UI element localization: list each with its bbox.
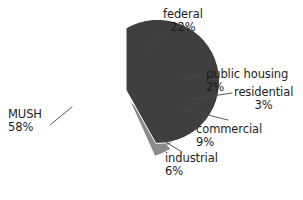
slice-label-industrial: industrial 6%: [165, 152, 218, 178]
slice-label-federal-percent: 22%: [163, 21, 203, 34]
slice-label-commercial-name: commercial: [196, 122, 262, 136]
slice-label-commercial: commercial 9%: [196, 123, 262, 149]
slice-label-commercial-percent: 9%: [196, 136, 262, 149]
slice-label-mush-name: MUSH: [8, 107, 42, 121]
slice-label-federal-name: federal: [163, 7, 203, 21]
pie-chart-screenshot: federal 22% public housing 2% residentia…: [0, 0, 303, 200]
slice-label-residential-percent: 3%: [234, 99, 293, 112]
slice-label-public-housing-name: public housing: [206, 67, 288, 81]
slice-label-industrial-percent: 6%: [165, 165, 218, 178]
slice-label-industrial-name: industrial: [165, 151, 218, 165]
leader-line-mush: [50, 107, 72, 125]
slice-label-residential-name: residential: [234, 85, 293, 99]
slice-label-mush: MUSH 58%: [8, 108, 42, 134]
slice-label-mush-percent: 58%: [8, 121, 42, 134]
slice-label-federal: federal 22%: [163, 8, 203, 34]
slice-label-residential: residential 3%: [234, 86, 293, 112]
